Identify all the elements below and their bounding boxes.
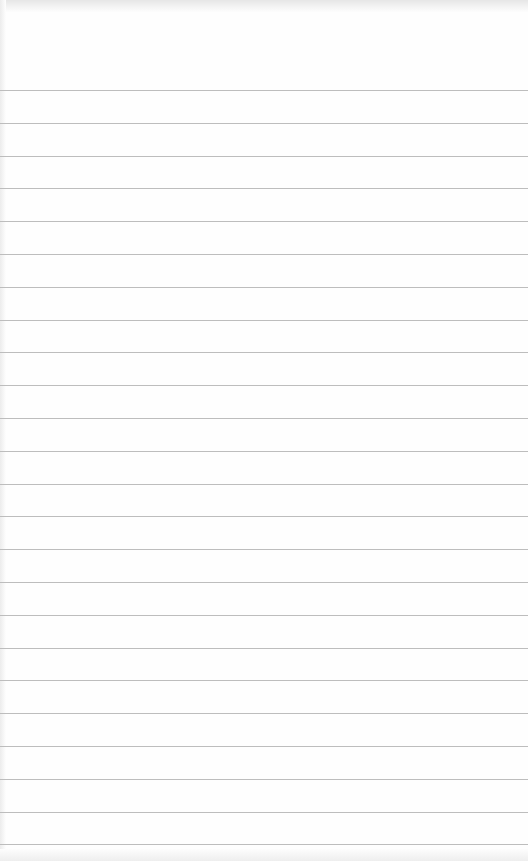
paper-bottom-edge <box>0 849 528 861</box>
ruled-line <box>0 713 528 714</box>
ruled-line <box>0 221 528 222</box>
ruled-line <box>0 123 528 124</box>
ruled-line <box>0 188 528 189</box>
ruled-line <box>0 516 528 517</box>
ruled-line <box>0 615 528 616</box>
ruled-line <box>0 451 528 452</box>
ruled-line <box>0 680 528 681</box>
ruled-line <box>0 484 528 485</box>
ruled-line <box>0 549 528 550</box>
paper-left-shadow <box>0 0 6 861</box>
ruled-line <box>0 812 528 813</box>
ruled-line <box>0 648 528 649</box>
ruled-line <box>0 352 528 353</box>
notepad-sheet <box>0 0 528 861</box>
perforated-top-edge <box>0 0 528 12</box>
ruled-line <box>0 385 528 386</box>
ruled-line <box>0 90 528 91</box>
ruled-line <box>0 779 528 780</box>
ruled-line <box>0 582 528 583</box>
ruled-line <box>0 254 528 255</box>
ruled-line <box>0 287 528 288</box>
ruled-line <box>0 746 528 747</box>
ruled-line <box>0 844 528 845</box>
ruled-line <box>0 418 528 419</box>
ruled-line <box>0 320 528 321</box>
ruled-line <box>0 156 528 157</box>
